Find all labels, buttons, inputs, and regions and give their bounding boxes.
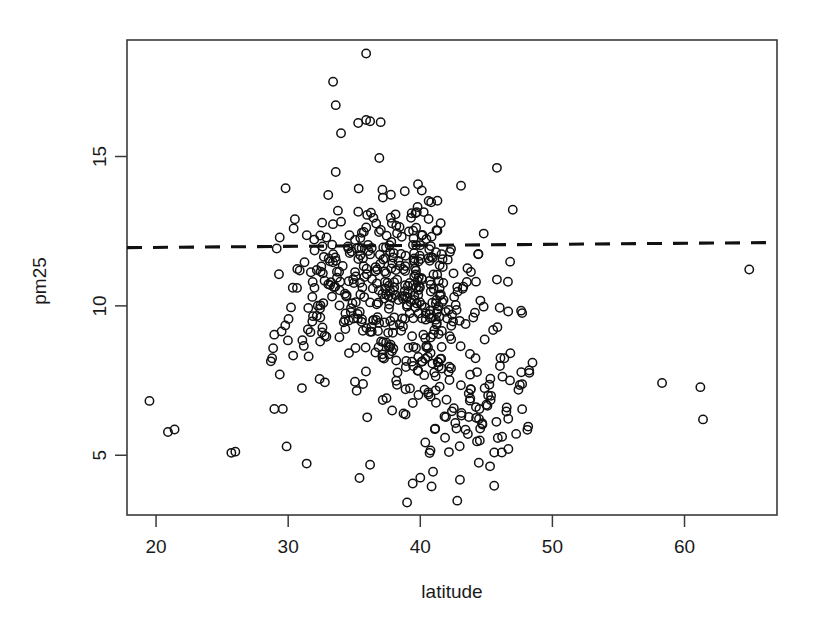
data-point (363, 413, 371, 421)
data-point (424, 215, 432, 223)
data-point (270, 330, 278, 338)
data-point (420, 371, 428, 379)
data-point (504, 307, 512, 315)
data-point (362, 367, 370, 375)
data-point (490, 482, 498, 490)
data-point (298, 336, 306, 344)
data-point (354, 184, 362, 192)
data-point (300, 258, 308, 266)
data-point (449, 269, 457, 277)
data-point (354, 119, 362, 127)
data-point (279, 405, 287, 413)
data-point (455, 442, 463, 450)
data-point (414, 180, 422, 188)
data-point (658, 379, 666, 387)
data-point (437, 250, 445, 258)
data-point (436, 219, 444, 227)
data-point (375, 228, 383, 236)
data-point (362, 49, 370, 57)
data-point (457, 381, 465, 389)
y-axis-tick-label: 10 (89, 295, 110, 316)
data-point (296, 266, 304, 274)
data-point (378, 185, 386, 193)
data-point (300, 342, 308, 350)
data-point (337, 217, 345, 225)
data-point (427, 482, 435, 490)
data-point (504, 445, 512, 453)
data-point (361, 343, 369, 351)
x-axis-tick-label: 50 (542, 536, 563, 557)
data-point (480, 229, 488, 237)
data-point (457, 182, 465, 190)
data-point (287, 303, 295, 311)
data-point (376, 118, 384, 126)
data-point (414, 391, 422, 399)
y-axis-title: pm25 (29, 257, 50, 305)
data-point (393, 368, 401, 376)
data-point (289, 224, 297, 232)
data-point (486, 462, 494, 470)
data-point (403, 498, 411, 506)
data-point (318, 323, 326, 331)
data-point (354, 208, 362, 216)
data-point (409, 399, 417, 407)
y-axis-tick-label: 15 (89, 146, 110, 167)
x-axis-title: latitude (421, 581, 482, 602)
data-point (310, 284, 318, 292)
scatter-plot-figure: 2030405060 51015 latitude pm25 (0, 0, 813, 638)
data-point (355, 474, 363, 482)
data-point (480, 335, 488, 343)
x-axis-tick-label: 30 (278, 536, 299, 557)
data-point (328, 292, 336, 300)
data-point (304, 304, 312, 312)
data-point (345, 349, 353, 357)
x-axis: 2030405060 (145, 515, 695, 557)
data-point (282, 442, 290, 450)
data-point (387, 191, 395, 199)
data-point (456, 342, 464, 350)
data-point (453, 496, 461, 504)
data-point (316, 337, 324, 345)
data-point (308, 293, 316, 301)
data-point (509, 205, 517, 213)
data-point (145, 397, 153, 405)
data-point (447, 335, 455, 343)
x-axis-tick-label: 40 (410, 536, 431, 557)
data-point (445, 448, 453, 456)
y-axis: 51015 (89, 146, 127, 461)
data-point (696, 383, 704, 391)
data-point (320, 253, 328, 261)
data-point (329, 220, 337, 228)
data-point (504, 278, 512, 286)
data-point (351, 378, 359, 386)
data-point (506, 376, 514, 384)
data-point (456, 476, 464, 484)
data-point (275, 270, 283, 278)
data-point (699, 415, 707, 423)
data-point (298, 384, 306, 392)
data-point (289, 351, 297, 359)
data-point (337, 129, 345, 137)
data-point (308, 317, 316, 325)
data-point (517, 368, 525, 376)
data-point (352, 387, 360, 395)
data-point (474, 250, 482, 258)
data-point (518, 405, 526, 413)
data-point (512, 430, 520, 438)
data-point (276, 233, 284, 241)
data-point (302, 459, 310, 467)
pm25-threshold-dashed-line (127, 243, 777, 248)
data-point (492, 418, 500, 426)
data-point (421, 438, 429, 446)
data-point (284, 336, 292, 344)
data-point (345, 231, 353, 239)
data-point (528, 359, 536, 367)
data-point (427, 232, 435, 240)
data-point (496, 304, 504, 312)
data-point (437, 343, 445, 351)
data-point (445, 376, 453, 384)
data-point (273, 244, 281, 252)
data-point (334, 206, 342, 214)
data-point (351, 236, 359, 244)
data-point (304, 352, 312, 360)
